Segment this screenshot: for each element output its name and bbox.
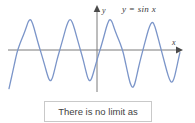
y-axis-label: y: [101, 6, 106, 15]
axes-group: [8, 5, 183, 92]
caption-box: There is no limit as: [44, 101, 152, 122]
sine-curve: [9, 20, 180, 89]
figure-screenshot: y x y = sin x There is no limit as: [0, 0, 195, 123]
caption-text: There is no limit as: [58, 107, 138, 117]
curve-equation-label: y = sin x: [121, 4, 156, 14]
y-axis-arrowhead: [94, 5, 101, 12]
sine-wave-chart: y x y = sin x: [0, 0, 195, 100]
x-axis-label: x: [171, 38, 176, 47]
sine-curve-group: [9, 20, 180, 89]
